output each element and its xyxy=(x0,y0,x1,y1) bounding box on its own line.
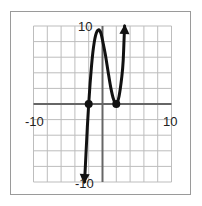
y-max-label: 10 xyxy=(78,20,92,33)
axes xyxy=(34,26,172,182)
coordinate-plane xyxy=(0,0,202,206)
x-max-label: 10 xyxy=(163,115,177,128)
y-min-label: -10 xyxy=(75,177,94,190)
x-min-label: -10 xyxy=(25,115,44,128)
root-point xyxy=(112,100,120,108)
root-point xyxy=(85,100,93,108)
